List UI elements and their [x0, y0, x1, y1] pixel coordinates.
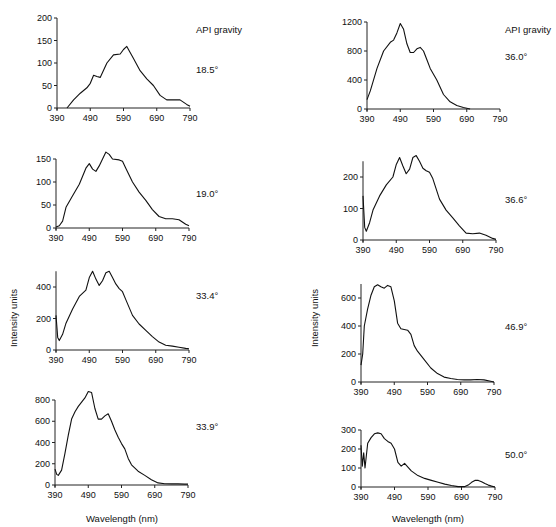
y-tick-label: 400 — [341, 321, 356, 331]
x-tick-label: 690 — [454, 492, 469, 502]
api-gravity-value: 18.5° — [196, 64, 218, 75]
y-tick-label: 100 — [343, 204, 358, 214]
y-tick-label: 50 — [41, 200, 51, 210]
x-axis-label-right: Wavelength (nm) — [392, 513, 464, 524]
spectrum-curve — [361, 285, 494, 382]
api-gravity-value: 33.9° — [196, 421, 218, 432]
x-tick-label: 790 — [492, 114, 507, 124]
x-tick-label: 690 — [459, 114, 474, 124]
x-tick-label: 490 — [387, 387, 402, 397]
x-tick-label: 790 — [180, 490, 195, 500]
x-tick-label: 390 — [48, 355, 63, 365]
y-tick-label: 0 — [45, 480, 50, 490]
panels-group: 39049059069079005010015020018.5°39049059… — [35, 13, 528, 502]
y-tick-label: 0 — [351, 482, 356, 492]
y-tick-label: 400 — [347, 75, 362, 85]
x-tick-label: 490 — [387, 492, 402, 502]
y-tick-label: 600 — [35, 416, 50, 426]
x-tick-label: 390 — [49, 113, 64, 123]
spectrum-panel: 390490590690790020040060080033.9° — [35, 392, 219, 501]
api-gravity-value: 36.0° — [505, 51, 527, 62]
y-tick-label: 0 — [47, 103, 52, 113]
y-tick-label: 200 — [35, 459, 50, 469]
x-tick-label: 690 — [148, 233, 163, 243]
y-tick-label: 200 — [341, 349, 356, 359]
spectrum-panel: 390490590690790020040033.4° — [36, 271, 219, 365]
x-tick-label: 690 — [149, 113, 164, 123]
x-tick-label: 590 — [115, 233, 130, 243]
x-tick-label: 490 — [82, 233, 97, 243]
x-tick-label: 390 — [353, 492, 368, 502]
y-tick-label: 200 — [36, 314, 51, 324]
x-tick-label: 490 — [83, 113, 98, 123]
api-gravity-value: 50.0° — [505, 449, 527, 460]
y-tick-label: 0 — [353, 235, 358, 245]
spectrum-curve — [67, 46, 190, 108]
spectrum-curve — [367, 24, 470, 110]
x-tick-label: 590 — [420, 492, 435, 502]
api-gravity-value: 19.0° — [196, 188, 218, 199]
y-tick-label: 0 — [46, 345, 51, 355]
y-tick-label: 100 — [36, 177, 51, 187]
y-tick-label: 200 — [343, 172, 358, 182]
x-tick-label: 390 — [355, 245, 370, 255]
x-axis-label-left: Wavelength (nm) — [86, 513, 158, 524]
y-tick-label: 150 — [36, 154, 51, 164]
api-gravity-value: 33.4° — [196, 290, 218, 301]
y-tick-label: 800 — [35, 395, 50, 405]
y-tick-label: 50 — [42, 81, 52, 91]
fluorescence-spectra-figure: 39049059069079005010015020018.5°39049059… — [0, 0, 556, 527]
y-tick-label: 200 — [341, 444, 356, 454]
x-tick-label: 590 — [116, 113, 131, 123]
spectrum-curve — [56, 152, 189, 227]
x-tick-label: 590 — [426, 114, 441, 124]
y-tick-label: 0 — [351, 377, 356, 387]
legend-title-api-gravity: API gravity — [505, 24, 551, 35]
x-tick-label: 490 — [82, 355, 97, 365]
y-tick-label: 300 — [341, 425, 356, 435]
x-tick-label: 590 — [420, 387, 435, 397]
y-axis-label-left: Intensity units — [8, 289, 19, 347]
legend-title-api-gravity: API gravity — [196, 24, 242, 35]
spectrum-panel: 3904905906907900400800120036.0° — [342, 17, 528, 124]
x-tick-label: 590 — [115, 355, 130, 365]
spectrum-panel: 39049059069079005010015020018.5° — [37, 13, 219, 123]
spectrum-panel: 390490590690790010020036.6° — [343, 156, 528, 255]
x-tick-label: 490 — [389, 245, 404, 255]
x-tick-label: 790 — [488, 245, 503, 255]
y-tick-label: 150 — [37, 36, 52, 46]
spectrum-curve — [55, 392, 188, 485]
y-tick-label: 200 — [37, 13, 52, 23]
y-tick-label: 100 — [341, 463, 356, 473]
y-tick-label: 100 — [37, 58, 52, 68]
x-tick-label: 390 — [353, 387, 368, 397]
spectrum-curve — [361, 433, 495, 487]
x-tick-label: 390 — [47, 490, 62, 500]
x-tick-label: 690 — [453, 387, 468, 397]
y-tick-label: 1200 — [342, 17, 362, 27]
spectrum-curve — [363, 156, 496, 240]
x-tick-label: 690 — [148, 355, 163, 365]
spectrum-panel: 39049059069079005010015019.0° — [36, 152, 219, 243]
api-gravity-value: 36.6° — [505, 194, 527, 205]
y-tick-label: 800 — [347, 46, 362, 56]
y-tick-label: 0 — [357, 104, 362, 114]
spectrum-curve — [56, 271, 189, 348]
x-tick-label: 790 — [487, 492, 502, 502]
x-tick-label: 590 — [114, 490, 129, 500]
x-tick-label: 490 — [393, 114, 408, 124]
x-tick-label: 490 — [81, 490, 96, 500]
y-tick-label: 400 — [36, 282, 51, 292]
x-tick-label: 790 — [181, 233, 196, 243]
x-tick-label: 590 — [422, 245, 437, 255]
x-tick-label: 790 — [182, 113, 197, 123]
spectrum-panel: 390490590690790020040060046.9° — [341, 284, 528, 397]
y-tick-label: 600 — [341, 293, 356, 303]
y-tick-label: 400 — [35, 438, 50, 448]
y-axis-label-right: Intensity units — [309, 289, 320, 347]
x-tick-label: 390 — [48, 233, 63, 243]
api-gravity-value: 46.9° — [505, 321, 527, 332]
x-tick-label: 390 — [359, 114, 374, 124]
spectrum-panel: 390490590690790010020030050.0° — [341, 425, 528, 502]
x-tick-label: 690 — [147, 490, 162, 500]
